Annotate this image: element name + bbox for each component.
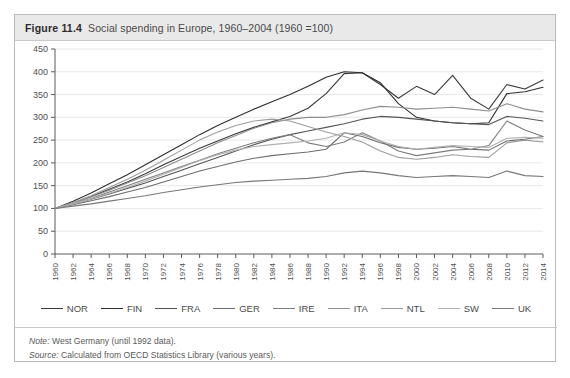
x-tick-label: 2006 (467, 262, 476, 280)
x-tick-label: 1984 (268, 262, 277, 280)
legend-swatch-ntl (381, 308, 403, 309)
legend-swatch-uk (492, 308, 514, 309)
legend-label: UK (518, 303, 531, 314)
y-tick-label: 200 (33, 158, 48, 168)
x-tick-label: 1982 (250, 262, 259, 280)
legend-item-fra[interactable]: FRA (155, 303, 200, 314)
figure-title-text: Social spending in Europe, 1960–2004 (19… (88, 22, 333, 34)
figure-panel: Figure 11.4 Social spending in Europe, 1… (14, 14, 556, 362)
legend-swatch-fra (155, 308, 177, 309)
legend-item-uk[interactable]: UK (492, 303, 531, 314)
legend-label: SW (464, 303, 479, 314)
y-axis-ticks (51, 49, 55, 254)
x-tick-label: 1990 (322, 262, 331, 280)
legend-label: NOR (67, 303, 88, 314)
figure-note: Note: West Germany (until 1992 data). (29, 336, 543, 346)
x-tick-label: 1978 (214, 262, 223, 280)
y-tick-label: 350 (33, 90, 48, 100)
chart-legend: NORFINFRAGERIREITANTLSWUK (15, 303, 557, 314)
legend-label: IRE (299, 303, 315, 314)
figure-source: Source: Calculated from OECD Statistics … (29, 350, 543, 360)
legend-label: FRA (181, 303, 200, 314)
x-tick-label: 2014 (539, 262, 548, 280)
legend-item-ger[interactable]: GER (213, 303, 260, 314)
series-line-uk (55, 171, 543, 208)
figure-title-bar: Figure 11.4 Social spending in Europe, 1… (15, 15, 555, 41)
x-tick-label: 1968 (123, 262, 132, 280)
x-tick-label: 1998 (394, 262, 403, 280)
y-axis-labels: 050100150200250300350400450 (33, 44, 48, 259)
x-tick-label: 2008 (485, 262, 494, 280)
x-tick-label: 1964 (87, 262, 96, 280)
figure-number-label: Figure 11.4 (25, 22, 82, 34)
series-line-ire (55, 121, 543, 208)
legend-swatch-sw (438, 308, 460, 309)
x-tick-label: 2000 (412, 262, 421, 280)
x-tick-label: 2004 (449, 262, 458, 280)
x-tick-label: 1974 (178, 262, 187, 280)
legend-item-ire[interactable]: IRE (273, 303, 315, 314)
legend-swatch-ita (328, 308, 350, 309)
x-axis-labels: 1960196219641966196819701972197419761978… (51, 262, 548, 280)
source-key-label: Source: (29, 350, 59, 360)
chart-gridlines (55, 49, 543, 231)
x-tick-label: 1970 (141, 262, 150, 280)
legend-item-nor[interactable]: NOR (41, 303, 88, 314)
line-chart: 050100150200250300350400450 196019621964… (15, 41, 557, 303)
legend-item-ntl[interactable]: NTL (381, 303, 425, 314)
x-tick-label: 1986 (286, 262, 295, 280)
legend-swatch-fin (101, 308, 123, 309)
legend-item-fin[interactable]: FIN (101, 303, 142, 314)
y-tick-label: 250 (33, 135, 48, 145)
legend-label: ITA (354, 303, 368, 314)
chart-plot-area: 050100150200250300350400450 196019621964… (15, 41, 555, 255)
series-line-sw (55, 133, 543, 209)
series-line-fra (55, 116, 543, 208)
x-tick-label: 1980 (232, 262, 241, 280)
x-tick-label: 2012 (521, 262, 530, 280)
legend-label: FIN (127, 303, 142, 314)
legend-label: NTL (407, 303, 425, 314)
x-tick-label: 1996 (376, 262, 385, 280)
x-axis-ticks (55, 254, 543, 258)
note-key-label: Note: (29, 336, 50, 346)
y-tick-label: 0 (43, 249, 48, 259)
note-text: West Germany (until 1992 data). (52, 336, 176, 346)
legend-label: GER (239, 303, 260, 314)
x-tick-label: 1992 (340, 262, 349, 280)
legend-swatch-ger (213, 308, 235, 309)
y-tick-label: 100 (33, 203, 48, 213)
x-tick-label: 1966 (105, 262, 114, 280)
x-tick-label: 2002 (431, 262, 440, 280)
y-tick-label: 450 (33, 44, 48, 54)
x-tick-label: 1960 (51, 262, 60, 280)
x-tick-label: 1988 (304, 262, 313, 280)
legend-swatch-ire (273, 308, 295, 309)
legend-swatch-nor (41, 308, 63, 309)
x-tick-label: 1962 (69, 262, 78, 280)
source-text: Calculated from OECD Statistics Library … (61, 350, 275, 360)
y-tick-label: 400 (33, 67, 48, 77)
y-tick-label: 150 (33, 181, 48, 191)
x-tick-label: 1976 (196, 262, 205, 280)
y-tick-label: 300 (33, 112, 48, 122)
legend-item-sw[interactable]: SW (438, 303, 479, 314)
x-tick-label: 1994 (358, 262, 367, 280)
x-tick-label: 2010 (503, 262, 512, 280)
series-line-ger (55, 133, 543, 209)
legend-item-ita[interactable]: ITA (328, 303, 368, 314)
x-tick-label: 1972 (159, 262, 168, 280)
figure-footer: Note: West Germany (until 1992 data). So… (15, 327, 557, 364)
y-tick-label: 50 (38, 226, 48, 236)
